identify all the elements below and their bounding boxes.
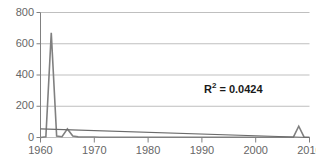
chart-container: 8006004002000 196019701980199020002010 R…: [0, 0, 316, 165]
x-tick-label-1960: 1960: [21, 145, 61, 156]
series-data: [41, 33, 310, 138]
plot-area: [0, 0, 316, 165]
r-squared-base: R: [204, 83, 212, 95]
y-tick-label-200: 200: [0, 100, 34, 111]
x-tick-label-2010: 2010: [290, 145, 317, 156]
y-tick-label-0: 0: [0, 132, 34, 143]
y-tick-label-text: 200: [4, 100, 34, 111]
r-squared-annotation: R2 = 0.0424: [204, 81, 263, 95]
y-tick-label-text: 800: [4, 7, 34, 18]
y-tick-label-text: 600: [4, 38, 34, 49]
y-tick-label-600: 600: [0, 38, 34, 49]
r-squared-value: = 0.0424: [216, 83, 262, 95]
x-tick-label-1980: 1980: [128, 145, 168, 156]
x-tick-label-1970: 1970: [74, 145, 114, 156]
x-tick-label-1990: 1990: [182, 145, 222, 156]
y-tick-label-text: 400: [4, 69, 34, 80]
y-tick-label-400: 400: [0, 69, 34, 80]
y-tick-label-text: 0: [4, 132, 34, 143]
x-tick-label-2000: 2000: [236, 145, 276, 156]
y-tick-label-800: 800: [0, 7, 34, 18]
